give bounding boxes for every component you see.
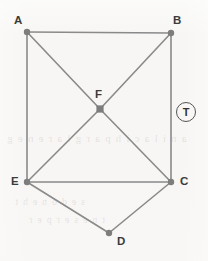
graph-edge-d-c (109, 182, 171, 233)
graph-vertex-a (24, 29, 30, 35)
vertex-label-d: D (117, 236, 125, 248)
graph-edge-f-e (27, 109, 100, 182)
graph-vertex-e (24, 179, 30, 185)
graph-edge-f-c (100, 109, 171, 182)
vertex-label-b: B (173, 15, 181, 27)
graph-edge-a-f (27, 32, 100, 109)
vertex-label-a: A (14, 15, 22, 27)
vertex-label-c: C (180, 176, 188, 188)
vertex-label-f: F (95, 89, 102, 101)
circled-letter-tag: T (176, 102, 196, 122)
vertex-layer (24, 29, 174, 236)
graph-edge-e-d (27, 182, 109, 233)
graph-canvas (0, 0, 208, 261)
graph-edge-b-f (100, 33, 171, 109)
graph-vertex-d (106, 230, 112, 236)
graph-edge-a-b (27, 32, 171, 33)
vertex-label-e: E (11, 176, 19, 188)
graph-vertex-f (96, 105, 103, 112)
graph-vertex-c (168, 179, 174, 185)
circled-letter-tag-label: T (183, 107, 190, 118)
graph-vertex-b (168, 30, 174, 36)
edge-layer (27, 32, 171, 233)
graph-figure: a n i l a c i h p a r g l a r e n e g s … (0, 0, 208, 261)
